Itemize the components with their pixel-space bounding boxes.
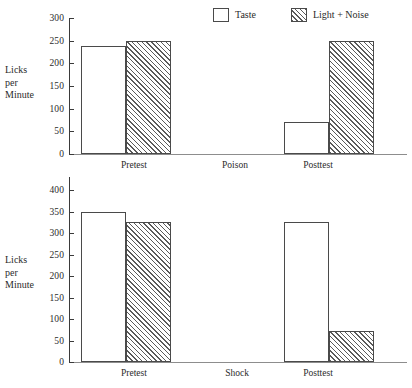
bar-pretest-light-noise	[126, 222, 171, 362]
y-tick-label-100: 100	[24, 105, 64, 115]
y-tick-label-100: 100	[24, 315, 64, 325]
x-tick-label-shock: Shock	[207, 368, 267, 378]
y-tick-label-200: 200	[24, 59, 64, 69]
y-tick-150	[69, 298, 74, 299]
x-tick-label-posttest: Posttest	[287, 160, 349, 170]
y-tick-300	[69, 18, 74, 19]
y-tick-100	[69, 319, 74, 320]
bar-posttest-taste	[284, 122, 329, 154]
y-tick-200	[69, 63, 74, 64]
y-tick-label-250: 250	[24, 251, 64, 261]
y-tick-0	[69, 154, 74, 155]
y-tick-400	[69, 190, 74, 191]
y-tick-50	[69, 131, 74, 132]
y-tick-label-0: 0	[24, 358, 64, 368]
y-tick-label-50: 50	[24, 127, 64, 137]
y-tick-label-350: 350	[24, 208, 64, 218]
bar-posttest-light-noise	[329, 331, 374, 362]
chart-panel-shock: Licks per Minute	[0, 178, 412, 388]
x-tick-label-poison: Poison	[205, 160, 265, 170]
y-tick-label-150: 150	[24, 294, 64, 304]
y-tick-0	[69, 362, 74, 363]
y-tick-50	[69, 341, 74, 342]
x-axis-line-bottom	[69, 362, 407, 363]
garcia-koelling-bar-figure: Taste Light + Noise Licks per Minute	[0, 0, 412, 388]
y-tick-label-50: 50	[24, 337, 64, 347]
y-tick-label-150: 150	[24, 82, 64, 92]
y-tick-label-250: 250	[24, 37, 64, 47]
chart-panel-poison: Taste Light + Noise Licks per Minute	[0, 0, 412, 178]
y-tick-label-400: 400	[24, 186, 64, 196]
x-axis-line-top	[69, 154, 407, 155]
x-tick-label-posttest: Posttest	[287, 368, 349, 378]
bar-posttest-light-noise	[329, 41, 374, 154]
bar-pretest-light-noise	[126, 41, 171, 154]
x-tick-label-pretest: Pretest	[104, 368, 164, 378]
y-tick-300	[69, 233, 74, 234]
bar-pretest-taste	[81, 212, 126, 362]
bar-posttest-taste	[284, 222, 329, 362]
y-axis-line-bottom	[69, 177, 70, 363]
plot-area-top	[69, 18, 407, 154]
y-tick-label-0: 0	[24, 150, 64, 160]
y-tick-250	[69, 41, 74, 42]
y-tick-250	[69, 255, 74, 256]
y-tick-label-200: 200	[24, 272, 64, 282]
y-tick-350	[69, 212, 74, 213]
y-tick-100	[69, 109, 74, 110]
y-tick-200	[69, 276, 74, 277]
y-tick-150	[69, 86, 74, 87]
y-tick-label-300: 300	[24, 229, 64, 239]
x-tick-label-pretest: Pretest	[104, 160, 164, 170]
plot-area-bottom	[69, 190, 407, 362]
y-tick-label-300: 300	[24, 14, 64, 24]
bar-pretest-taste	[81, 46, 126, 154]
